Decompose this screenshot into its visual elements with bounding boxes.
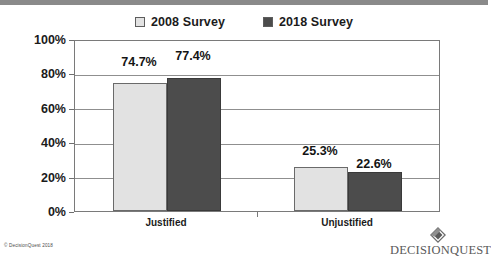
chart-legend: 2008 Survey 2018 Survey [0, 12, 488, 32]
y-tick-mark-0 [69, 212, 74, 213]
y-tick-label-100: 100% [6, 33, 66, 47]
category-label-unjustified: Unjustified [321, 217, 373, 228]
bar-value-justified-2008: 74.7% [121, 55, 156, 69]
category-divider-tick [257, 212, 258, 217]
legend-label-2008: 2008 Survey [151, 15, 225, 29]
bar-unjustified-2008[interactable] [294, 167, 348, 211]
bar-value-unjustified-2008: 25.3% [302, 144, 337, 158]
category-label-justified: Justified [145, 217, 186, 228]
y-tick-label-0: 0% [6, 205, 66, 219]
legend-item-2008: 2008 Survey [135, 15, 225, 29]
bar-justified-2018[interactable] [167, 78, 221, 211]
diamond-logo-icon [390, 227, 486, 243]
light-square-swatch-icon [135, 17, 145, 27]
bar-chart: 2008 Survey 2018 Survey 100% 80% 60% 40%… [0, 5, 488, 259]
bar-justified-2008[interactable] [113, 83, 167, 211]
bar-value-justified-2018: 77.4% [175, 49, 210, 63]
gridline-80 [75, 75, 439, 76]
dark-square-swatch-icon [263, 17, 273, 27]
bar-value-unjustified-2018: 22.6% [356, 157, 391, 171]
decisionquest-logo: DECISIONQUEST [390, 227, 486, 259]
y-tick-label-80: 80% [6, 67, 66, 81]
y-tick-label-60: 60% [6, 102, 66, 116]
y-tick-label-20: 20% [6, 171, 66, 185]
brand-wordmark: DECISIONQUEST [390, 243, 486, 257]
legend-label-2018: 2018 Survey [279, 15, 353, 29]
y-tick-label-40: 40% [6, 136, 66, 150]
bar-unjustified-2018[interactable] [348, 172, 402, 211]
copyright-notice: © DecisionQuest 2018 [4, 243, 53, 248]
legend-item-2018: 2018 Survey [263, 15, 353, 29]
